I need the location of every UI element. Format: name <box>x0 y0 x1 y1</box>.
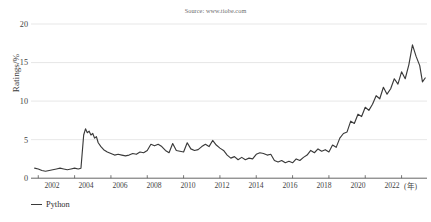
chart-figure: Source: www.tiobe.com Ratings/% 20 15 10… <box>0 0 431 222</box>
plot-area <box>0 0 431 222</box>
legend-swatch-python <box>31 204 42 206</box>
legend-label-python: Python <box>46 200 70 209</box>
legend: Python <box>31 200 70 209</box>
gridlines <box>31 24 427 140</box>
series-line-python <box>35 45 426 171</box>
